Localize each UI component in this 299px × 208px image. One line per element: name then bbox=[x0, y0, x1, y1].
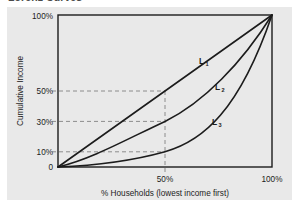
y-tick-label-30: 30% bbox=[37, 118, 53, 127]
lorenz-chart-svg: L 1 L 2 L 3 100% 50% 30% 10% 0 bbox=[7, 7, 292, 200]
curve-label-l2-text: L bbox=[215, 82, 220, 92]
x-axis-title: % Households (lowest income first) bbox=[101, 189, 229, 198]
y-tick-label-10: 10% bbox=[37, 148, 53, 157]
x-tick-label-50: 50% bbox=[157, 175, 173, 184]
curve-label-l3-subscript: 3 bbox=[219, 122, 222, 128]
y-tick-label-50: 50% bbox=[37, 87, 53, 96]
x-tick-label-100: 100% bbox=[262, 175, 283, 184]
y-axis-tick-labels: 100% 50% 30% 10% 0 bbox=[32, 12, 53, 173]
y-axis-title: Cumulative Income bbox=[16, 56, 25, 127]
lorenz-curve-figure: Lorenz Curves bbox=[0, 0, 299, 208]
y-tick-label-0: 0 bbox=[48, 163, 53, 172]
curve-label-l3-text: L bbox=[212, 117, 217, 127]
x-axis-tick-labels: 50% 100% bbox=[157, 175, 283, 184]
y-tick-label-100: 100% bbox=[32, 12, 53, 21]
curve-label-l1-text: L bbox=[199, 56, 204, 66]
figure-caption-clipped: Lorenz Curves bbox=[8, 0, 82, 3]
chart-panel: L 1 L 2 L 3 100% 50% 30% 10% 0 bbox=[7, 7, 292, 200]
curve-label-l1-subscript: 1 bbox=[206, 61, 209, 67]
curve-label-l2-subscript: 2 bbox=[222, 87, 225, 93]
